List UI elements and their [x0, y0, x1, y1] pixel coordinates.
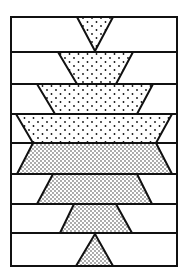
quilt-block-svg [0, 0, 190, 279]
bottom-triangle [76, 234, 113, 266]
row-6-trapezoid [37, 174, 152, 204]
row-7-trapezoid [60, 204, 132, 233]
row-3-trapezoid [37, 84, 153, 114]
top-triangle [77, 17, 113, 51]
row-2-trapezoid [58, 52, 133, 84]
row-5-trapezoid [17, 143, 172, 174]
row-4-trapezoid [16, 114, 172, 143]
stippled-shapes [16, 17, 172, 266]
quilt-diagram [0, 0, 190, 279]
